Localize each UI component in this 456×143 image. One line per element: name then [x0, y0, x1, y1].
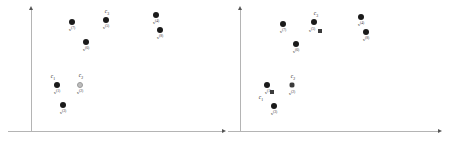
cluster-label-subscript: 3	[107, 12, 109, 16]
data-point-label-x8: x(8)	[363, 37, 369, 43]
data-point-label-x5: x(5)	[309, 28, 315, 34]
clustering-figure: x(7)x(5)x(4)x(8)x(6)x(1)x(2)x(3)c3c1c2x(…	[0, 0, 456, 143]
y-axis	[240, 10, 241, 132]
point-label-index: (7)	[282, 28, 286, 32]
point-label-index: (2)	[291, 90, 295, 94]
cluster-label-c1: c1	[259, 95, 263, 103]
point-label-index: (4)	[155, 19, 159, 23]
cluster-label-subscript: 1	[53, 77, 55, 81]
x-axis	[8, 131, 222, 132]
x-axis-arrow-icon	[222, 129, 226, 133]
right-plot: x(7)x(5)x(4)x(8)x(6)x(1)x(2)x(3)c3c2c1	[228, 0, 456, 143]
y-axis	[31, 10, 32, 132]
x-axis	[228, 131, 438, 132]
cluster-label-c2: c2	[291, 74, 295, 82]
data-point-label-x6: x(6)	[83, 47, 89, 53]
point-label-index: (6)	[85, 46, 89, 50]
data-point-label-x5: x(5)	[103, 25, 109, 31]
point-label-index: (3)	[273, 110, 277, 114]
point-label-index: (5)	[105, 24, 109, 28]
point-label-index: (8)	[365, 36, 369, 40]
point-label-index: (1)	[56, 89, 60, 93]
centroid-c3	[318, 29, 322, 33]
cluster-label-c3: c3	[314, 11, 318, 19]
point-label-index: (2)	[79, 89, 83, 93]
data-point-x2	[77, 82, 83, 88]
data-point-x3	[271, 103, 277, 109]
x-axis-arrow-icon	[438, 129, 442, 133]
cluster-label-subscript: 2	[81, 76, 83, 80]
y-axis-arrow-icon	[238, 6, 242, 10]
cluster-label-c1: c1	[51, 74, 55, 82]
cluster-label-subscript: 1	[261, 98, 263, 102]
data-point-x1	[264, 82, 270, 88]
data-point-x6	[293, 41, 299, 47]
point-label-index: (5)	[311, 27, 315, 31]
data-point-x7	[69, 19, 75, 25]
left-plot: x(7)x(5)x(4)x(8)x(6)x(1)x(2)x(3)c3c1c2	[0, 0, 228, 143]
data-point-label-x6: x(6)	[293, 49, 299, 55]
data-point-label-x3: x(3)	[271, 111, 277, 117]
cluster-label-c2: c2	[79, 73, 83, 81]
data-point-label-x7: x(7)	[69, 27, 75, 33]
y-axis-arrow-icon	[29, 6, 33, 10]
data-point-label-x1: x(1)	[54, 90, 60, 96]
data-point-x6	[83, 39, 89, 45]
data-point-x5	[103, 17, 109, 23]
data-point-label-x2: x(2)	[289, 91, 295, 97]
point-label-index: (4)	[360, 21, 364, 25]
point-label-index: (8)	[159, 34, 163, 38]
data-point-x1	[54, 82, 60, 88]
point-label-index: (3)	[62, 109, 66, 113]
data-point-label-x2: x(2)	[77, 90, 83, 96]
data-point-x5	[311, 19, 317, 25]
data-point-label-x4: x(4)	[153, 20, 159, 26]
cluster-label-subscript: 3	[316, 14, 318, 18]
data-point-x8	[157, 27, 163, 33]
data-point-x7	[280, 21, 286, 27]
point-label-index: (6)	[295, 48, 299, 52]
data-point-label-x7: x(7)	[280, 29, 286, 35]
data-point-x4	[153, 12, 159, 18]
centroid-c2	[290, 83, 294, 87]
data-point-label-x8: x(8)	[157, 35, 163, 41]
data-point-label-x4: x(4)	[358, 22, 364, 28]
data-point-x8	[363, 29, 369, 35]
data-point-label-x3: x(3)	[60, 110, 66, 116]
cluster-label-c3: c3	[105, 9, 109, 17]
cluster-label-subscript: 2	[293, 77, 295, 81]
centroid-c1	[270, 90, 274, 94]
data-point-x3	[60, 102, 66, 108]
point-label-index: (7)	[71, 26, 75, 30]
data-point-x4	[358, 14, 364, 20]
